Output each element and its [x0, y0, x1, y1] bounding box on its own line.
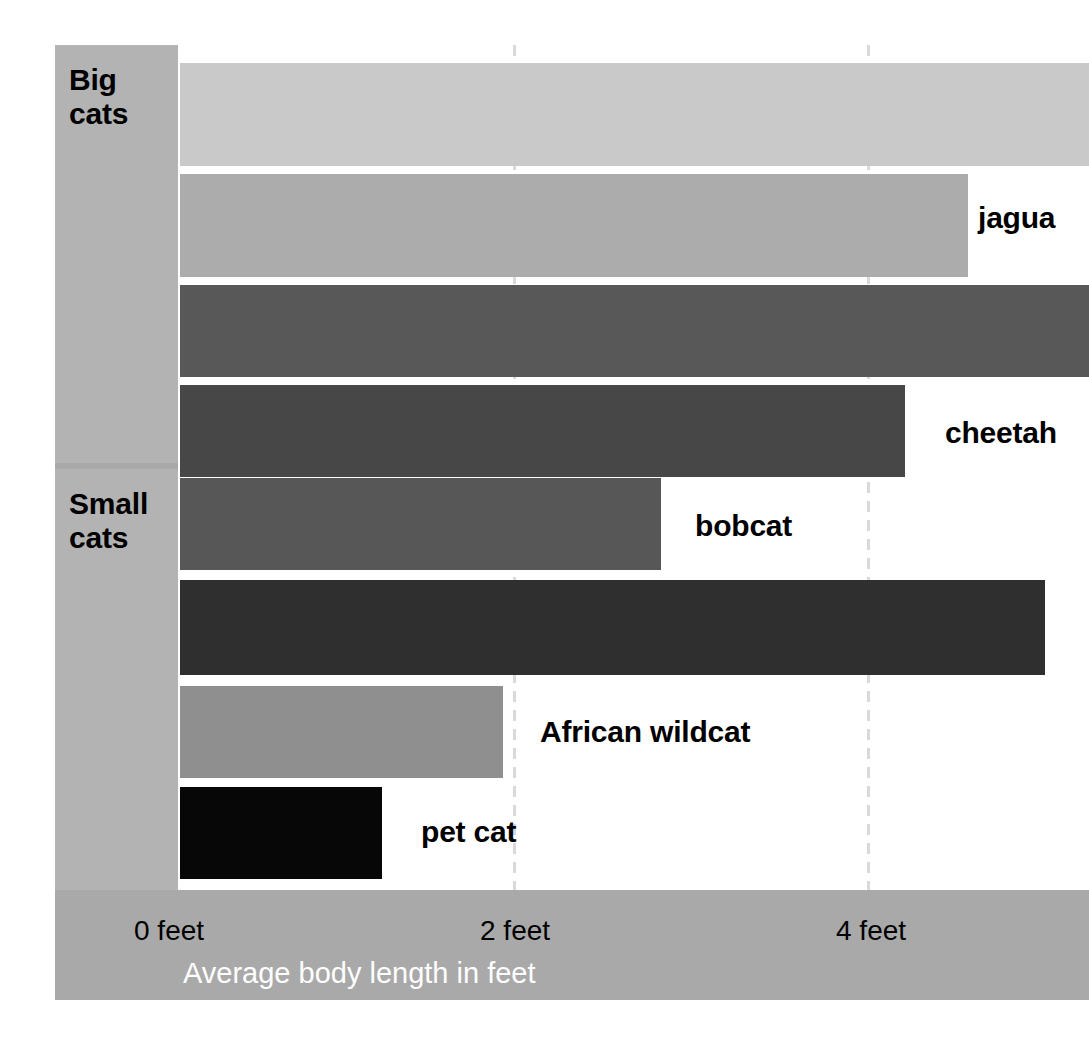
bar-jaguar — [180, 174, 968, 277]
bar-african-wildcat — [180, 686, 503, 778]
group-column-small-cats: Smallcats — [55, 469, 178, 890]
chart-screenshot: jagua cheetah bobcat African wildcat pet… — [0, 0, 1089, 1047]
bar-big-cats-1 — [180, 63, 1089, 166]
group-column-big-cats: Bigcats — [55, 45, 178, 463]
x-tick-label-2-feet: 2 feet — [480, 915, 550, 947]
bar-label-african-wildcat: African wildcat — [540, 715, 750, 749]
x-axis-zone: 0 feet 2 feet 4 feet Average body length… — [55, 890, 1089, 1000]
bar-cheetah — [180, 385, 905, 477]
x-tick-label-4-feet: 4 feet — [836, 915, 906, 947]
bar-small-cats-2 — [180, 580, 1045, 675]
group-label-small-cats-line2: cats — [69, 521, 128, 554]
chart-panel: jagua cheetah bobcat African wildcat pet… — [55, 45, 1089, 1000]
group-label-small-cats-line1: Small — [69, 487, 148, 520]
x-tick-label-0-feet: 0 feet — [134, 915, 204, 947]
bar-label-jaguar: jagua — [978, 201, 1055, 235]
group-label-big-cats-line2: cats — [69, 97, 128, 130]
x-axis-title: Average body length in feet — [183, 957, 536, 990]
group-label-big-cats-line1: Big — [69, 63, 117, 96]
bar-label-bobcat: bobcat — [695, 509, 792, 543]
bar-bobcat — [180, 478, 661, 570]
bar-big-cats-3 — [180, 285, 1089, 377]
bar-label-pet-cat: pet cat — [421, 815, 516, 849]
bar-pet-cat — [180, 787, 382, 879]
bar-label-cheetah: cheetah — [945, 416, 1057, 450]
group-label-small-cats: Smallcats — [69, 487, 148, 554]
group-label-big-cats: Bigcats — [69, 63, 128, 130]
